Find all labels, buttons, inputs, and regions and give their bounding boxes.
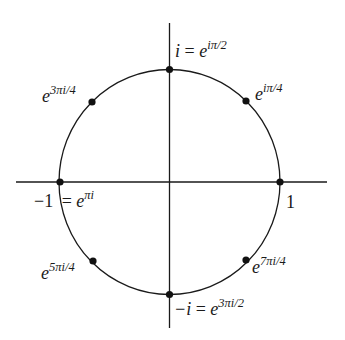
label-equals: =: [191, 299, 210, 319]
label-equals: =: [57, 191, 76, 211]
label-minus-one: −1 = eπi: [34, 192, 94, 210]
point-e-pi-4: [242, 97, 249, 104]
label-e-3pi-4: e3πi/4: [42, 87, 76, 105]
label-lhs: −i: [174, 299, 191, 319]
label-base: e: [252, 257, 260, 277]
label-exponent: iπ/4: [263, 81, 282, 95]
label-base: 1: [286, 192, 295, 212]
point-e-7pi-4: [242, 256, 249, 263]
label-minus-i: −i = e3πi/2: [174, 300, 244, 318]
point-e-3pi-2: [166, 291, 173, 298]
label-lhs: −1: [34, 191, 53, 211]
point-e-5pi-4: [89, 257, 96, 264]
label-e-5pi-4: e5πi/4: [41, 264, 75, 282]
unit-circle-diagram: [0, 0, 345, 340]
label-i: i = eiπ/2: [175, 42, 227, 60]
label-exponent: 3πi/4: [50, 83, 76, 97]
label-e-7pi-4: e7πi/4: [252, 258, 286, 276]
label-equals: =: [180, 41, 199, 61]
label-exponent: 7πi/4: [260, 254, 286, 268]
label-base: e: [255, 84, 263, 104]
label-base: e: [41, 263, 49, 283]
point-e-pi: [56, 178, 63, 185]
label-base: e: [42, 86, 50, 106]
point-e-3pi-4: [88, 98, 95, 105]
label-exponent: 3πi/2: [218, 296, 244, 310]
point-e-pi-2: [166, 66, 173, 73]
label-exponent: πi: [84, 188, 94, 202]
label-exponent: 5πi/4: [49, 260, 75, 274]
label-one: 1: [286, 193, 295, 211]
label-e-pi-4: eiπ/4: [255, 85, 282, 103]
label-exponent: iπ/2: [207, 38, 226, 52]
label-base: e: [199, 41, 207, 61]
point-e0: [276, 178, 283, 185]
